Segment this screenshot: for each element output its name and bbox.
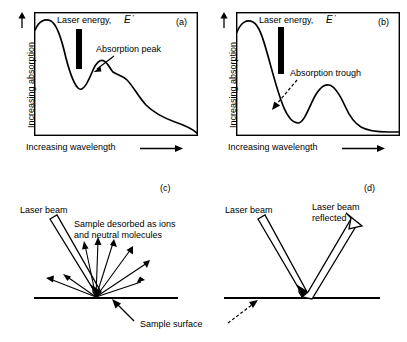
panel-a-annotation-arrow xyxy=(90,54,116,74)
panel-c-desorbed-arrowheads xyxy=(46,237,150,283)
panel-c: (c) Laser beam Sample desorbed as ions a… xyxy=(0,171,204,342)
panel-a-plot xyxy=(34,12,198,136)
panel-a-x-axis-label: Increasing wavelength xyxy=(26,142,116,152)
panel-d-surface-callout-head xyxy=(249,300,258,308)
panel-b-annotation-label: Absorption trough xyxy=(290,68,361,78)
panel-b-x-axis-label: Increasing wavelength xyxy=(228,142,318,152)
panel-b-laser-energy-symbol: E xyxy=(326,15,333,25)
panel-b-tag: (b) xyxy=(378,17,389,27)
panel-a-laser-energy-symbol: E xyxy=(124,15,131,25)
panel-b-y-axis-arrow xyxy=(218,12,230,28)
panel-d-incident-beam xyxy=(258,215,307,297)
panel-a: Increasing absorption Laser energy, E ' … xyxy=(0,0,204,171)
panel-a-laser-energy-prime: ' xyxy=(132,13,134,23)
panel-b-laser-energy-prime: ' xyxy=(334,13,336,23)
panel-a-laser-energy-label: Laser energy, xyxy=(57,15,111,25)
panel-b-laser-energy-bar xyxy=(278,27,285,74)
panel-b-laser-energy-label: Laser energy, xyxy=(259,15,313,25)
panel-a-annotation-label: Absorption peak xyxy=(96,44,161,54)
panel-a-laser-energy-bar xyxy=(76,29,83,69)
panel-d-ray-diagram xyxy=(204,171,407,342)
panel-c-surface-label: Sample surface xyxy=(140,319,203,329)
panel-d-reflected-beam xyxy=(302,219,358,299)
panel-d: (d) Laser beam Laser beam reflected xyxy=(204,171,407,342)
panel-d-surface-callout-line xyxy=(228,304,253,323)
figure-laser-desorption: Increasing absorption Laser energy, E ' … xyxy=(0,0,407,342)
panel-a-y-axis-arrow xyxy=(16,12,28,28)
panel-b-x-axis-arrow xyxy=(342,143,387,154)
panel-a-tag: (a) xyxy=(176,17,187,27)
panel-b-annotation-arrow xyxy=(266,78,300,114)
panel-c-ray-diagram xyxy=(0,171,204,342)
panel-b: Increasing absorption Laser energy, E ' … xyxy=(204,0,407,171)
panel-a-x-axis-arrow xyxy=(140,143,185,154)
panel-c-surface-callout-line xyxy=(116,303,134,321)
